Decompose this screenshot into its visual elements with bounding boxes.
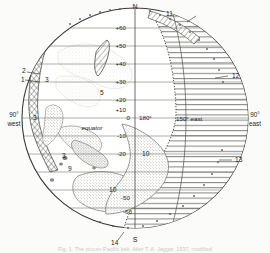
callout-3c: 3: [62, 152, 66, 159]
callout-11: 11: [166, 10, 173, 17]
callout-12: 12: [232, 72, 240, 79]
globe-figure: N S 90° west 90° east equator 180° 150° …: [0, 0, 270, 253]
label-lat-plus20: +20: [116, 96, 127, 103]
label-north: N: [132, 3, 137, 10]
label-lat-minus60: -60: [123, 208, 133, 215]
label-meridian-150east: 150° east: [176, 115, 202, 122]
label-lat-zero: 0: [127, 114, 131, 121]
callout-3a: 3: [45, 76, 49, 83]
callout-1: 1: [21, 76, 25, 83]
label-east-edge-degrees: 90°: [250, 111, 260, 118]
label-lat-plus60: +60: [116, 24, 127, 31]
callout-9: 9: [68, 165, 72, 172]
label-equator: equator: [82, 124, 104, 131]
label-west-edge-degrees: 90°: [9, 111, 19, 118]
island-dot-f: [92, 167, 96, 170]
figure-caption: Fig. 1. The circum-Pacific belt. After T…: [0, 244, 270, 253]
callout-5: 5: [100, 89, 104, 96]
label-meridian-180: 180°: [139, 114, 152, 121]
island-dot-c: [50, 178, 54, 181]
label-east-edge-direction: east: [249, 120, 261, 127]
island-dot-b: [59, 162, 63, 165]
callout-3b: 3: [33, 114, 37, 121]
globe-diagram-svg: N S 90° west 90° east equator 180° 150° …: [0, 0, 270, 253]
label-lat-plus10: +10: [116, 106, 127, 113]
label-lat-plus50: +50: [116, 42, 127, 49]
callout-13: 13: [235, 156, 243, 163]
callout-10a: 10: [142, 150, 150, 157]
label-south: S: [133, 236, 138, 243]
label-lat-plus30: +30: [116, 78, 127, 85]
label-lat-minus50: -50: [121, 194, 131, 201]
label-west-edge-direction: west: [7, 120, 21, 127]
callout-10b: 10: [109, 186, 117, 193]
label-lat-minus20: -20: [117, 150, 127, 157]
callout-2: 2: [22, 67, 26, 74]
label-lat-plus40: +40: [116, 60, 127, 67]
label-lat-minus10: -10: [117, 132, 127, 139]
